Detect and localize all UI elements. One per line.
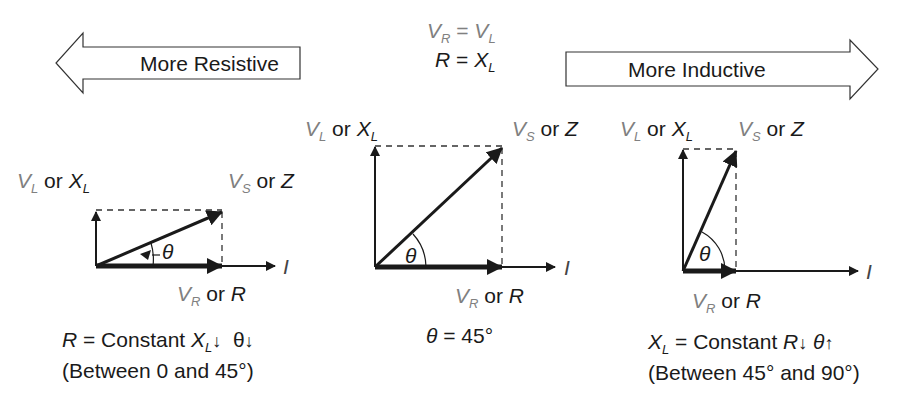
caption-resistive-line2: (Between 0 and 45°) (62, 359, 254, 382)
vs-or-z-label-2: VS or Z (512, 118, 578, 143)
panel-balanced-phasor (375, 146, 555, 267)
caption-balanced: θ = 45° (426, 324, 493, 347)
caption-inductive-line1: XL = Constant R↓ θ↑ (648, 330, 860, 361)
theta-label-2: θ (405, 245, 416, 266)
more-resistive-label: More Resistive (140, 53, 279, 74)
equation-vr-equals-vl: VR = VL (427, 20, 496, 45)
down-arrow-icon: ↓ (245, 331, 254, 351)
vl-or-xl-label-1: VL or XL (17, 170, 90, 195)
caption-resistive: R = Constant XL↓ θ↓ (Between 0 and 45°) (62, 328, 254, 382)
down-arrow-icon: ↓ (212, 331, 221, 351)
panel-resistive-phasor (96, 210, 275, 266)
theta-label-3: θ (699, 243, 710, 264)
caption-inductive: XL = Constant R↓ θ↑ (Between 45° and 90°… (648, 330, 860, 384)
current-i-label-1: I (283, 256, 289, 277)
vl-or-xl-label-3: VL or XL (620, 118, 693, 143)
vl-or-xl-label-2: VL or XL (305, 118, 378, 143)
vs-or-z-label-3: VS or Z (738, 118, 804, 143)
vs-or-z-label-1: VS or Z (228, 170, 294, 195)
current-i-label-2: I (564, 257, 570, 278)
theta-label-1: θ (162, 241, 173, 262)
current-i-label-3: I (866, 261, 872, 282)
more-inductive-label: More Inductive (628, 59, 766, 80)
up-arrow-icon: ↑ (825, 333, 834, 353)
equation-r-equals-xl: R = XL (435, 49, 495, 74)
vr-or-r-label-1: VR or R (177, 283, 246, 308)
vr-or-r-label-2: VR or R (455, 285, 524, 310)
caption-resistive-line1: R = Constant XL↓ θ↓ (62, 328, 254, 359)
down-arrow-icon: ↓ (798, 333, 807, 353)
caption-inductive-line2: (Between 45° and 90°) (648, 361, 860, 384)
vr-or-r-label-3: VR or R (692, 290, 761, 315)
